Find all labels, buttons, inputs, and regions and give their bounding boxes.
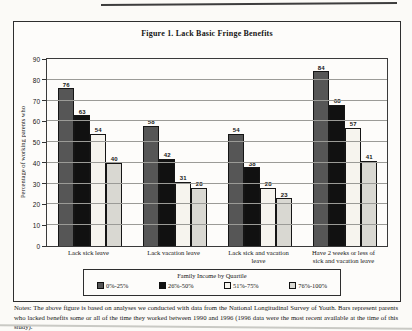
y-tick-label: 50 xyxy=(33,139,40,146)
bar-group: 58423128 xyxy=(132,59,217,246)
bar-value-label: 76 xyxy=(63,82,70,88)
bar-51%-75%: 57 xyxy=(345,128,361,246)
category-label: Lack vacation leave xyxy=(131,249,216,265)
y-tick-label: 20 xyxy=(33,201,40,208)
legend-entry: 76%-100% xyxy=(289,282,327,289)
gridline xyxy=(47,224,387,225)
bar-value-label: 42 xyxy=(164,152,171,158)
category-label: Have 2 weeks or less of sick and vacatio… xyxy=(301,249,386,265)
legend-label: 76%-100% xyxy=(298,282,327,289)
x-axis-labels: Lack sick leaveLack vacation leaveLack s… xyxy=(46,249,386,265)
bar-0%-25%: 58 xyxy=(143,126,159,247)
y-axis-labels: 0102030405060708090 xyxy=(26,59,46,246)
y-tick-label: 80 xyxy=(33,77,40,84)
legend-entry: 51%-75% xyxy=(224,282,259,289)
y-tick-label: 0 xyxy=(36,243,40,250)
bar-0%-25%: 76 xyxy=(58,88,74,246)
gridline xyxy=(47,183,387,184)
bar-value-label: 84 xyxy=(318,65,325,71)
bar-26%-50%: 42 xyxy=(159,159,175,246)
bar-value-label: 57 xyxy=(350,121,357,127)
bar-51%-75%: 54 xyxy=(90,134,106,246)
gridline xyxy=(47,120,387,121)
bar-value-label: 54 xyxy=(95,127,102,133)
y-tick-label: 40 xyxy=(33,160,40,167)
gridline xyxy=(47,162,387,163)
y-tick xyxy=(42,59,46,60)
legend-entry: 0%-25% xyxy=(97,282,128,289)
figure-title: Figure 1. Lack Basic Fringe Benefits xyxy=(14,29,400,38)
bar-0%-25%: 84 xyxy=(313,71,329,246)
y-tick xyxy=(42,162,46,163)
gridline xyxy=(47,141,387,142)
legend-label: 0%-25% xyxy=(106,282,128,289)
bar-0%-25%: 54 xyxy=(228,134,244,246)
y-tick xyxy=(42,79,46,80)
legend-label: 26%-50% xyxy=(168,282,194,289)
bar-value-label: 54 xyxy=(233,127,240,133)
bar-26%-50%: 38 xyxy=(244,167,260,246)
y-tick-label: 30 xyxy=(33,181,40,188)
y-tick xyxy=(42,246,46,247)
y-tick-label: 10 xyxy=(33,222,40,229)
legend-entry: 26%-50% xyxy=(159,282,194,289)
legend-swatch-icon xyxy=(97,282,104,289)
legend-swatch-icon xyxy=(289,282,296,289)
y-tick-label: 90 xyxy=(33,56,40,63)
legend-swatch-icon xyxy=(224,282,231,289)
y-tick xyxy=(42,183,46,184)
bar-51%-75%: 28 xyxy=(260,188,276,246)
category-label: Lack sick leave xyxy=(46,249,131,265)
gridline xyxy=(47,100,387,101)
bar-value-label: 63 xyxy=(79,109,86,115)
bar-value-label: 31 xyxy=(180,175,187,181)
bar-group: 76635440 xyxy=(47,59,132,246)
figure-box: Figure 1. Lack Basic Fringe Benefits Per… xyxy=(13,21,401,302)
y-tick xyxy=(42,121,46,122)
category-label: Lack sick and vacation leave xyxy=(216,249,301,265)
bar-group: 84685741 xyxy=(302,59,387,246)
bar-76%-100%: 23 xyxy=(276,198,292,246)
y-tick xyxy=(42,142,46,143)
bar-value-label: 41 xyxy=(366,154,373,160)
legend-entries: 0%-25%26%-50%51%-75%76%-100% xyxy=(84,279,340,289)
gridline xyxy=(47,203,387,204)
y-tick xyxy=(42,204,46,205)
gridline xyxy=(47,79,387,80)
legend-title: Family Income by Quartile xyxy=(84,272,340,279)
y-tick xyxy=(42,100,46,101)
plot-area: 0102030405060708090 76635440584231285438… xyxy=(46,58,388,247)
bar-76%-100%: 28 xyxy=(191,188,207,246)
bar-51%-75%: 31 xyxy=(175,182,191,246)
page-top-rule xyxy=(101,2,397,6)
legend-label: 51%-75% xyxy=(233,282,259,289)
bar-26%-50%: 63 xyxy=(74,115,90,246)
y-tick xyxy=(42,225,46,226)
y-tick-label: 70 xyxy=(33,98,40,105)
legend-swatch-icon xyxy=(159,282,166,289)
legend-box: Family Income by Quartile 0%-25%26%-50%5… xyxy=(83,269,341,296)
bar-group: 54382823 xyxy=(217,59,302,246)
bar-value-label: 23 xyxy=(281,192,288,198)
y-tick-label: 60 xyxy=(33,118,40,125)
bar-groups: 76635440584231285438282384685741 xyxy=(47,59,387,246)
